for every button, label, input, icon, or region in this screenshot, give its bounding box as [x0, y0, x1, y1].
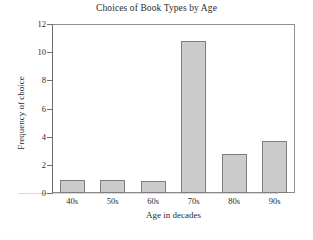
x-tick-label-40s: 40s: [66, 196, 78, 206]
bar-40s: [60, 180, 85, 193]
x-tick-label-70s: 70s: [188, 196, 200, 206]
chart-title: Choices of Book Types by Age: [0, 3, 313, 13]
scan-artifact: [0, 231, 313, 240]
y-tick-mark: [47, 52, 53, 53]
baseline-shadow: [18, 193, 278, 194]
x-tick-label-80s: 80s: [228, 196, 240, 206]
y-tick-mark: [47, 24, 53, 25]
y-tick-mark: [47, 109, 53, 110]
bar-chart-figure: Choices of Book Types by Age 024681012 4…: [0, 0, 313, 240]
y-tick-mark: [47, 193, 53, 194]
y-tick-mark: [47, 165, 53, 166]
y-tick-mark: [47, 137, 53, 138]
bars-layer: [52, 24, 295, 193]
x-tick-label-60s: 60s: [147, 196, 159, 206]
x-tick-label-90s: 90s: [269, 196, 281, 206]
y-tick-mark: [47, 80, 53, 81]
x-tick-label-50s: 50s: [107, 196, 119, 206]
x-axis-title: Age in decades: [52, 210, 295, 220]
y-axis-title: Frequency of choice: [16, 48, 26, 178]
bar-80s: [222, 154, 247, 193]
bar-90s: [262, 141, 287, 193]
y-tick-label: 12: [16, 19, 46, 29]
bar-70s: [181, 41, 206, 193]
bar-50s: [100, 180, 125, 193]
y-tick-label: 0: [16, 188, 46, 198]
bar-60s: [141, 181, 166, 193]
